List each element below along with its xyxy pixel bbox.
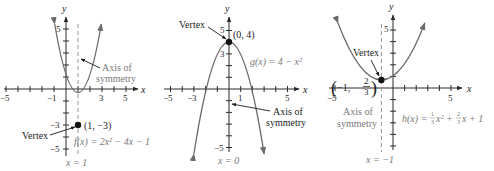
svg-text:1: 1 bbox=[431, 111, 434, 117]
vertex-point bbox=[378, 77, 384, 83]
vertex-point bbox=[75, 122, 81, 128]
x-axis-label: x bbox=[140, 84, 146, 95]
graph-h: x y −5 5 5 Vertex ( −1, 2 3 ) Axis of sy… bbox=[327, 1, 483, 165]
y-axis-label: y bbox=[388, 1, 394, 12]
vertex-pointer-arrow bbox=[371, 60, 379, 76]
function-label: g(x) = 4 − x² bbox=[250, 56, 303, 68]
axis-equation: x = 0 bbox=[217, 155, 239, 166]
x-tick-label: 5 bbox=[285, 93, 290, 103]
y-tick-label: 5 bbox=[220, 25, 225, 35]
x-tick-label: 1 bbox=[238, 93, 243, 103]
x-axis-label: x bbox=[302, 84, 308, 95]
y-axis-label: y bbox=[224, 3, 230, 14]
vertex-label: Vertex bbox=[179, 19, 205, 30]
y-axis-label: y bbox=[61, 3, 67, 14]
y-tick-label: −3 bbox=[50, 120, 60, 130]
vertex-label: Vertex bbox=[353, 47, 379, 58]
x-tick-label: 5 bbox=[448, 93, 453, 103]
vertex-coordinates: (0, 4) bbox=[233, 29, 255, 41]
svg-text:−1,: −1, bbox=[337, 82, 350, 93]
graph-f: x y −5 −1 3 5 5 −3 −5 (1, −3) Vertex Axi… bbox=[0, 3, 150, 168]
axis-pointer-arrow bbox=[81, 59, 100, 68]
x-tick-label: 3 bbox=[99, 93, 104, 103]
svg-text:3: 3 bbox=[364, 87, 369, 97]
vertex-coordinates: (1, −3) bbox=[84, 120, 111, 132]
svg-text:2: 2 bbox=[457, 111, 460, 117]
function-label: f(x) = 2x² − 4x − 1 bbox=[74, 136, 150, 148]
svg-text:3: 3 bbox=[457, 119, 460, 125]
figure-canvas: x y −5 −1 3 5 5 −3 −5 (1, −3) Vertex Axi… bbox=[0, 0, 494, 171]
axis-of-symmetry-label: Axis of bbox=[343, 106, 373, 117]
x-tick-label: −5 bbox=[0, 93, 10, 103]
axis-equation: x = 1 bbox=[65, 157, 87, 168]
svg-text:): ) bbox=[371, 78, 377, 99]
graph-g: x y −5 −3 1 5 5 3 −5 (0, 4) Vertex g(x) … bbox=[163, 3, 308, 166]
vertex-point bbox=[226, 39, 232, 45]
axis-of-symmetry-label: Axis of bbox=[102, 62, 132, 73]
vertex-label: Vertex bbox=[22, 130, 48, 141]
svg-text:x² +: x² + bbox=[435, 113, 453, 124]
svg-text:3: 3 bbox=[431, 119, 434, 125]
axis-of-symmetry-label: symmetry bbox=[337, 118, 377, 129]
axis-of-symmetry-label: symmetry bbox=[96, 73, 136, 84]
axis-of-symmetry-label: symmetry bbox=[266, 117, 306, 128]
x-tick-label: −3 bbox=[187, 93, 197, 103]
svg-text:2: 2 bbox=[364, 76, 369, 86]
y-tick-label: −5 bbox=[214, 143, 224, 153]
x-axis-label: x bbox=[466, 83, 472, 94]
x-tick-label: 5 bbox=[123, 93, 128, 103]
axis-equation: x = −1 bbox=[365, 154, 394, 165]
y-tick-label: −5 bbox=[50, 144, 60, 154]
svg-text:x + 1: x + 1 bbox=[461, 113, 483, 124]
axis-pointer-arrow bbox=[232, 104, 270, 111]
axis-of-symmetry-label: Axis of bbox=[273, 106, 303, 117]
function-label: h(x) = 1 3 x² + 2 3 x + 1 bbox=[402, 111, 483, 125]
x-tick-label: −1 bbox=[47, 93, 57, 103]
y-tick-label: 3 bbox=[220, 49, 225, 59]
y-tick-label: 5 bbox=[384, 24, 389, 34]
svg-text:h(x) =: h(x) = bbox=[402, 113, 430, 125]
x-tick-label: −5 bbox=[163, 93, 173, 103]
